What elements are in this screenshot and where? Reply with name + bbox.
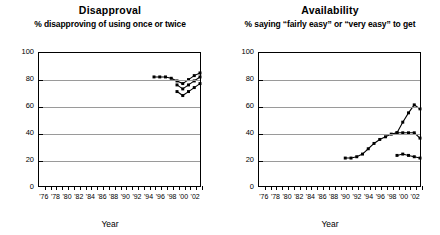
x-tick-1993 (364, 186, 365, 190)
x-tick-1989 (341, 186, 342, 190)
series-line-series-1 (345, 105, 420, 158)
gridline-y-40 (39, 134, 200, 135)
data-point-marker (181, 94, 184, 97)
x-tick-1981 (74, 186, 75, 190)
data-point-marker (344, 157, 347, 160)
data-point-marker (407, 154, 410, 157)
x-tick-1976 (45, 186, 46, 190)
x-tick-1976 (265, 186, 266, 190)
x-tick-1998 (393, 186, 394, 190)
y-tick-label-80: 80 (0, 75, 34, 83)
y-tick-label-20: 20 (0, 156, 34, 164)
data-point-marker (164, 75, 167, 78)
y-tick-mark-40 (39, 134, 43, 135)
data-point-marker (419, 107, 422, 110)
y-tick-mark-20 (259, 161, 263, 162)
data-point-marker (361, 153, 364, 156)
data-point-marker (193, 74, 196, 77)
y-tick-mark-60 (259, 107, 263, 108)
x-axis-title-disapproval: Year (0, 219, 220, 229)
x-tick-1996 (381, 186, 382, 190)
y-tick-mark-40 (259, 134, 263, 135)
data-point-marker (199, 82, 202, 85)
x-tick-1977 (51, 186, 52, 190)
panel-disapproval: Disapproval % disapproving of using once… (0, 0, 220, 235)
x-tick-1981 (294, 186, 295, 190)
data-point-marker (350, 157, 353, 160)
x-tick-1993 (144, 186, 145, 190)
x-tick-2001 (410, 186, 411, 190)
data-point-marker (355, 155, 358, 158)
y-tick-mark-20 (39, 161, 43, 162)
data-point-marker (199, 71, 202, 74)
data-point-marker (419, 137, 422, 140)
y-tick-label-20: 20 (220, 156, 254, 164)
y-tick-label-0: 0 (220, 183, 254, 191)
x-tick-1982 (80, 186, 81, 190)
x-tick-1997 (167, 186, 168, 190)
chart-title-availability: Availability (220, 4, 440, 16)
x-tick-1989 (121, 186, 122, 190)
data-point-marker (176, 90, 179, 93)
x-tick-1991 (132, 186, 133, 190)
gridline-y-20 (39, 161, 200, 162)
data-point-marker (413, 155, 416, 158)
y-tick-label-40: 40 (0, 129, 34, 137)
x-tick-1994 (370, 186, 371, 190)
gridline-y-80 (39, 80, 200, 81)
x-tick-1995 (155, 186, 156, 190)
data-point-marker (378, 138, 381, 141)
gridline-y-60 (39, 107, 200, 108)
plot-area-disapproval (38, 52, 201, 187)
x-tick-1977 (271, 186, 272, 190)
gridline-y-20 (259, 161, 420, 162)
data-point-marker (396, 154, 399, 157)
gridline-y-80 (259, 80, 420, 81)
x-tick-1994 (150, 186, 151, 190)
x-tick-label-02: '02 (184, 193, 206, 200)
data-point-marker (199, 75, 202, 78)
plot-area-availability (258, 52, 421, 187)
gridline-y-40 (259, 134, 420, 135)
data-point-marker (187, 83, 190, 86)
x-tick-1979 (282, 186, 283, 190)
x-tick-1980 (68, 186, 69, 190)
chart-page: Disapproval % disapproving of using once… (0, 0, 440, 235)
x-tick-1987 (109, 186, 110, 190)
x-tick-label-02: '02 (404, 193, 426, 200)
series-line-series-1 (154, 73, 200, 84)
x-tick-2003 (422, 186, 423, 190)
data-point-marker (419, 157, 422, 160)
x-tick-1999 (179, 186, 180, 190)
data-point-marker (176, 83, 179, 86)
x-tick-2002 (416, 186, 417, 190)
x-tick-1980 (288, 186, 289, 190)
x-tick-2000 (185, 186, 186, 190)
y-tick-label-40: 40 (220, 129, 254, 137)
y-tick-mark-80 (39, 80, 43, 81)
x-tick-1992 (138, 186, 139, 190)
x-tick-1996 (161, 186, 162, 190)
x-tick-1986 (103, 186, 104, 190)
data-point-marker (407, 111, 410, 114)
x-tick-1988 (335, 186, 336, 190)
x-tick-1984 (311, 186, 312, 190)
x-tick-1990 (346, 186, 347, 190)
x-tick-1982 (300, 186, 301, 190)
data-point-marker (153, 75, 156, 78)
panel-availability: Availability % saying “fairly easy” or “… (220, 0, 440, 235)
x-tick-1985 (317, 186, 318, 190)
x-tick-1997 (387, 186, 388, 190)
x-tick-1987 (329, 186, 330, 190)
y-tick-label-60: 60 (0, 102, 34, 110)
data-point-marker (158, 75, 161, 78)
x-tick-1985 (97, 186, 98, 190)
x-tick-1978 (56, 186, 57, 190)
x-tick-1983 (86, 186, 87, 190)
chart-title-disapproval: Disapproval (0, 4, 220, 16)
data-point-marker (181, 82, 184, 85)
chart-subtitle-disapproval: % disapproving of using once or twice (0, 19, 220, 29)
y-tick-mark-80 (259, 80, 263, 81)
y-tick-label-100: 100 (0, 48, 34, 56)
x-tick-1988 (115, 186, 116, 190)
